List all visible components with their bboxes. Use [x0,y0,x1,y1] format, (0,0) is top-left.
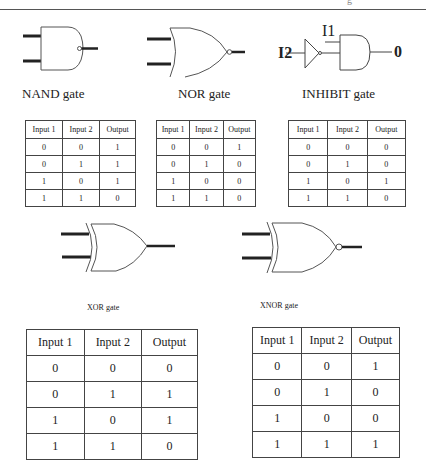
table-cell: 0 [27,356,85,382]
table-row: 001 [253,354,400,380]
table-cell: 0 [157,139,190,156]
table-header-row: Input 1 Input 2 Output [26,121,136,139]
xnor-gate-icon [240,220,365,280]
table-cell: 1 [289,173,328,190]
table-row: 011 [26,156,136,173]
table-cell: 0 [142,356,198,382]
table-cell: 1 [253,406,302,432]
table-cell: 0 [367,139,405,156]
nand-gate-label: NAND gate [22,86,84,102]
table-cell: 1 [328,190,367,207]
table-cell: 1 [157,190,190,207]
inhibit-input1-label: I1 [322,22,335,40]
table-cell: 0 [100,190,136,207]
table-cell: 1 [190,156,223,173]
inhibit-output-label: 0 [394,43,402,61]
table-header-row: Input 1 Input 2 Output [27,330,198,356]
table-cell: 1 [100,139,136,156]
table-row: 101 [27,408,198,434]
table-row: 000 [27,356,198,382]
table-cell: 1 [302,432,351,458]
table-header-row: Input 1 Input 2 Output [289,121,406,139]
table-cell: 0 [289,156,328,173]
table-cell: 0 [142,434,198,460]
column-header: Input 1 [27,330,85,356]
table-row: 000 [289,139,406,156]
column-header: Input 2 [328,121,367,139]
table-cell: 0 [351,406,399,432]
table-cell: 1 [351,354,399,380]
nor-gate-label: NOR gate [178,86,230,102]
table-cell: 0 [302,354,351,380]
column-header: Input 2 [84,330,142,356]
table-cell: 1 [223,139,255,156]
table-cell: 0 [302,406,351,432]
table-cell: 0 [223,156,255,173]
xor-gate-label: XOR gate [87,303,119,312]
table-cell: 0 [223,190,255,207]
table-cell: 1 [367,173,405,190]
table-cell: 1 [157,173,190,190]
table-cell: 1 [26,190,63,207]
xnor-truth-table: Input 1 Input 2 Output 001 010 100 111 [252,327,400,458]
table-cell: 1 [100,156,136,173]
table-row: 101 [289,173,406,190]
table-row: 001 [157,139,256,156]
column-header: Input 1 [26,121,63,139]
table-cell: 0 [367,190,405,207]
table-row: 011 [27,382,198,408]
column-header: Output [351,328,399,354]
column-header: Input 2 [190,121,223,139]
table-cell: 0 [223,173,255,190]
column-header: Output [100,121,136,139]
nor-truth-table: Input 1 Input 2 Output 001 010 100 110 [156,120,256,207]
table-cell: 1 [63,190,100,207]
table-cell: 0 [84,356,142,382]
table-cell: 1 [84,434,142,460]
table-cell: 1 [328,156,367,173]
table-cell: 1 [351,432,399,458]
table-cell: 1 [84,382,142,408]
column-header: Input 2 [302,328,351,354]
table-row: 110 [26,190,136,207]
table-cell: 1 [26,173,63,190]
table-cell: 1 [190,190,223,207]
table-cell: 0 [27,382,85,408]
table-cell: 0 [328,173,367,190]
column-header: Input 1 [157,121,190,139]
table-cell: 1 [63,156,100,173]
xnor-gate-label: XNOR gate [260,301,298,310]
table-cell: 0 [26,156,63,173]
table-cell: 1 [142,382,198,408]
table-cell: 0 [84,408,142,434]
table-cell: 0 [367,156,405,173]
table-cell: 0 [289,139,328,156]
table-row: 100 [157,173,256,190]
table-cell: 1 [253,432,302,458]
table-cell: 1 [27,408,85,434]
xor-truth-table: Input 1 Input 2 Output 000 011 101 110 [26,329,198,460]
inhibit-gate-label: INHIBIT gate [302,86,375,102]
nor-gate-icon [145,22,245,82]
column-header: Output [223,121,255,139]
table-row: 010 [289,156,406,173]
table-cell: 0 [63,173,100,190]
column-header: Input 1 [289,121,328,139]
table-cell: 0 [253,380,302,406]
table-row: 110 [27,434,198,460]
table-cell: 1 [302,380,351,406]
column-header: Input 1 [253,328,302,354]
table-cell: 0 [328,139,367,156]
table-header-row: Input 1 Input 2 Output [253,328,400,354]
table-cell: 0 [190,173,223,190]
xor-gate-icon [60,225,180,280]
column-header: Input 2 [63,121,100,139]
table-row: 101 [26,173,136,190]
table-row: 110 [289,190,406,207]
table-cell: 0 [63,139,100,156]
table-row: 010 [253,380,400,406]
header-rule [0,9,426,10]
table-cell: 1 [100,173,136,190]
column-header: Output [142,330,198,356]
table-row: 110 [157,190,256,207]
